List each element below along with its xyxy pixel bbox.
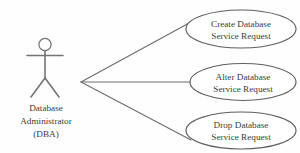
actor-database-administrator[interactable] bbox=[27, 38, 63, 97]
actor-label-line-1: Database bbox=[29, 103, 63, 113]
use-case-label-line-2: Service Request bbox=[211, 132, 271, 142]
use-case-diagram-canvas: Database Administrator (DBA) Create Data… bbox=[0, 0, 300, 153]
use-case-ellipse[interactable] bbox=[186, 112, 296, 149]
diagram-surface: Database Administrator (DBA) Create Data… bbox=[0, 0, 300, 153]
actor-left-leg-icon bbox=[31, 78, 45, 97]
association-line-drop[interactable] bbox=[81, 82, 191, 140]
actor-head-icon bbox=[39, 38, 51, 50]
use-case-drop-database-service-request[interactable]: Drop Database Service Request bbox=[186, 112, 296, 149]
actor-label-line-3: (DBA) bbox=[33, 129, 59, 139]
use-case-alter-database-service-request[interactable]: Alter Database Service Request bbox=[190, 64, 296, 101]
actor-label: Database Administrator (DBA) bbox=[20, 103, 72, 139]
use-case-ellipse[interactable] bbox=[190, 64, 296, 101]
use-case-create-database-service-request[interactable]: Create Database Service Request bbox=[186, 10, 296, 48]
actor-label-line-2: Administrator bbox=[20, 116, 72, 126]
association-lines bbox=[81, 22, 192, 140]
use-case-ellipse[interactable] bbox=[186, 10, 296, 48]
use-case-label-line-1: Alter Database bbox=[216, 72, 271, 82]
association-line-create[interactable] bbox=[81, 22, 191, 82]
actor-right-leg-icon bbox=[45, 78, 59, 97]
use-case-label-line-2: Service Request bbox=[213, 84, 273, 94]
use-case-label-line-2: Service Request bbox=[211, 31, 271, 41]
use-case-label-line-1: Drop Database bbox=[214, 120, 269, 130]
use-case-label-line-1: Create Database bbox=[211, 19, 271, 29]
